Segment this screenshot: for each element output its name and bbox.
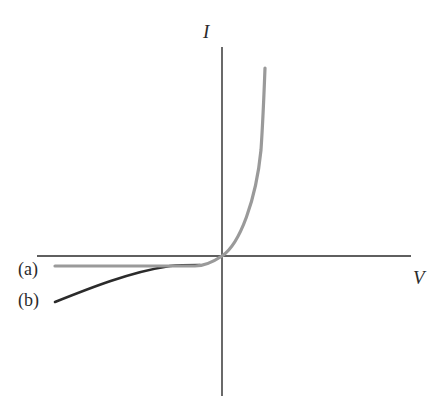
curve-b-label: (b): [18, 290, 39, 311]
curve-a-label: (a): [18, 259, 38, 280]
curve-a: [55, 68, 265, 266]
iv-diagram: I V (a) (b): [0, 0, 441, 419]
y-axis-label: I: [202, 21, 211, 42]
curve-b: [55, 265, 200, 302]
x-axis-label: V: [413, 267, 427, 288]
